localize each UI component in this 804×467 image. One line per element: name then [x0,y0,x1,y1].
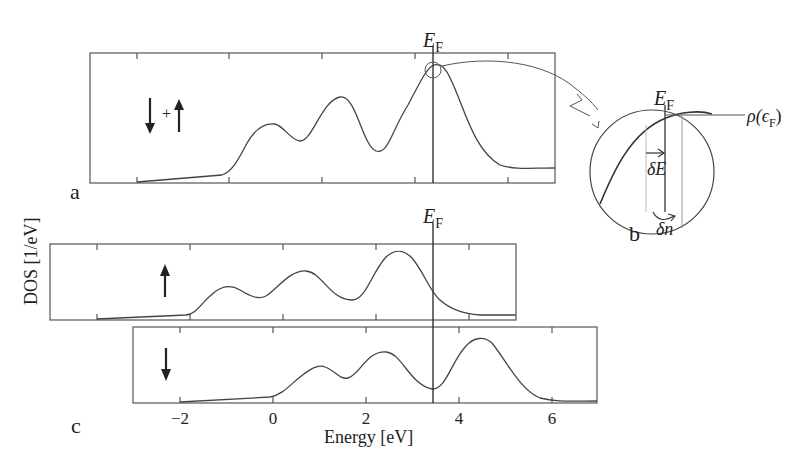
x-axis-title: Energy [eV] [324,428,413,446]
panel-c-down-dos-curve [180,338,597,402]
panel-c-down-frame [133,327,597,403]
panel-label-b: b [629,223,640,245]
delta-e-label: δE [647,160,666,178]
x-tick-label: 6 [548,410,557,427]
x-tick-label: 2 [362,410,371,427]
fermi-label-a: EF [423,30,443,55]
x-tick-label: 0 [269,410,278,427]
panel-c-down-ticks [180,327,552,403]
fermi-label-c: EF [423,206,443,231]
spin-icons [145,98,184,381]
y-axis-title: DOS [1/eV] [22,218,40,306]
rho-label: ρ(ϵF) [747,107,782,129]
x-tick-label: 4 [455,410,464,427]
c-spin-up-arrowhead-icon [160,264,170,276]
panel-b-magnified [590,105,745,234]
panel-a-dos-curve [137,65,555,182]
panel-b-dos-curve [600,112,712,204]
spin-down-arrowhead-icon [145,123,155,134]
zoom-connector-kink [570,94,590,116]
delta-n-label: δn [656,220,673,238]
spin-up-arrowhead-icon [174,99,184,110]
x-tick-label: −2 [171,410,189,427]
panel-label-a: a [70,181,80,203]
dos-figure [0,0,804,467]
plus-sign: + [162,106,171,122]
panel-a-frame [90,53,555,183]
panel-label-c: c [71,415,81,437]
fermi-label-b: EF [654,88,674,113]
zoom-connector-arrowhead [592,121,599,128]
c-spin-down-arrowhead-icon [161,369,171,381]
zoom-connector-arrow [442,61,598,110]
panel-a-ticks [137,53,508,183]
panel-c-up-dos-curve [97,251,516,319]
